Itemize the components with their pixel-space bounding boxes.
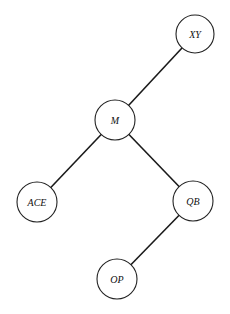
node-ace: ACE xyxy=(17,182,57,222)
node-label: M xyxy=(110,115,120,126)
nodes-layer: XYMACEQBOP xyxy=(17,15,214,299)
node-label: QB xyxy=(186,196,199,207)
node-m: M xyxy=(95,100,135,140)
node-qb: QB xyxy=(173,181,213,221)
node-xy: XY xyxy=(176,15,214,53)
node-op: OP xyxy=(97,259,137,299)
edges-layer xyxy=(37,34,195,279)
node-label: XY xyxy=(188,29,202,40)
tree-diagram: XYMACEQBOP xyxy=(0,0,230,314)
node-label: ACE xyxy=(27,197,47,208)
node-label: OP xyxy=(110,274,123,285)
